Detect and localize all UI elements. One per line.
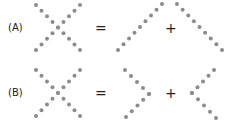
dot-diagram bbox=[0, 0, 238, 128]
b-chevron-left-bottom bbox=[190, 91, 218, 120]
b-chevron-right-bottom bbox=[124, 92, 151, 119]
a-slash-diagonal bbox=[116, 2, 164, 52]
b-chevron-left-top bbox=[190, 68, 216, 95]
b-chevron-right-top bbox=[123, 68, 151, 96]
a-backslash-diagonal bbox=[175, 2, 224, 52]
